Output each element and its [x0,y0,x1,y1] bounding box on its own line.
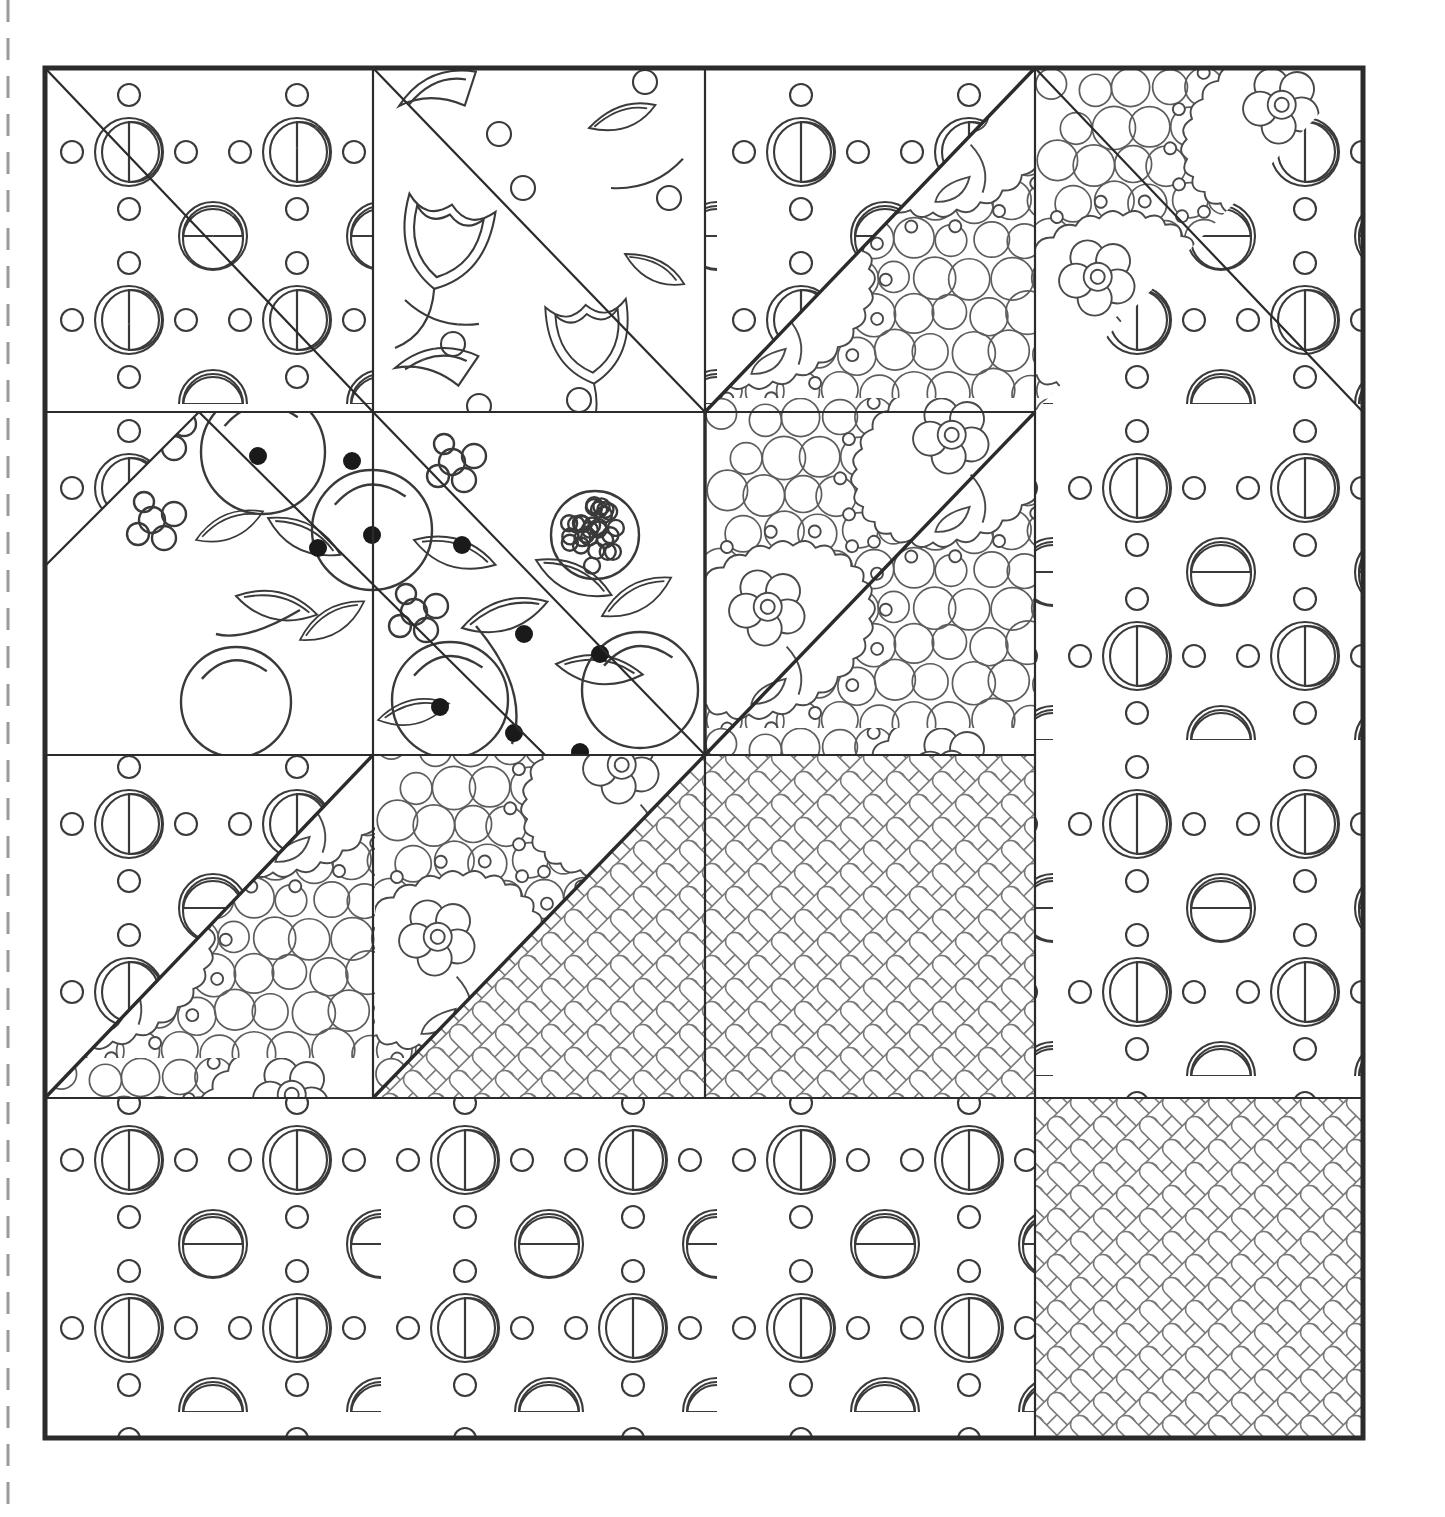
patch-right-column-button [1035,412,1363,1098]
page-canvas [0,0,1445,1517]
patch-bottom-right-weave-square [1035,1098,1363,1438]
quilt-block-illustration [0,0,1445,1517]
patch-bottom-button-band [45,1098,1035,1438]
